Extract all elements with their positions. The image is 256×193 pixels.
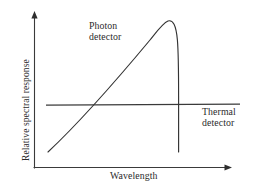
photon-detector-annotation: Photon detector (89, 21, 121, 43)
thermal-detector-annotation-line2: detector (202, 118, 236, 129)
spectral-response-figure: Relative spectral response Wavelength Ph… (0, 0, 256, 193)
figure-canvas (0, 0, 256, 193)
y-axis-label: Relative spectral response (21, 59, 32, 161)
photon-detector-annotation-line2: detector (89, 32, 121, 43)
x-axis-label: Wavelength (110, 171, 158, 182)
y-axis-arrow-icon (31, 11, 37, 19)
thermal-detector-annotation: Thermal detector (202, 107, 236, 129)
x-axis-arrow-icon (225, 164, 233, 170)
